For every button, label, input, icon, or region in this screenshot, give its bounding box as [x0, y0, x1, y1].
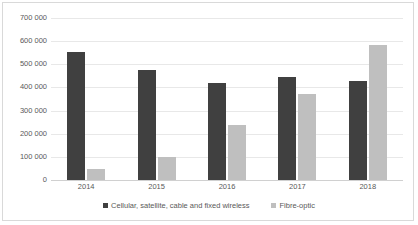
bar-group-2015: [138, 18, 176, 180]
bar-2017-series-0: [278, 77, 296, 180]
y-tick-label: 300 000: [3, 107, 47, 115]
chart-legend: Cellular, satellite, cable and fixed wir…: [3, 202, 415, 210]
bar-2018-series-1: [369, 45, 387, 180]
legend-swatch-icon: [271, 203, 276, 208]
legend-item-series-1[interactable]: Fibre-optic: [271, 202, 314, 210]
x-tick-label-2014: 2014: [78, 183, 95, 191]
y-tick-label: 200 000: [3, 130, 47, 138]
plot-area: [51, 18, 403, 180]
bar-2016-series-0: [208, 83, 226, 180]
y-tick-label: 700 000: [3, 14, 47, 22]
legend-label: Cellular, satellite, cable and fixed wir…: [111, 202, 249, 210]
bar-2014-series-0: [67, 52, 85, 180]
legend-swatch-icon: [103, 203, 108, 208]
y-tick-label: 0: [3, 176, 47, 184]
y-tick-label: 400 000: [3, 84, 47, 92]
chart-frame: 0100 000200 000300 000400 000500 000600 …: [2, 2, 414, 221]
bar-2015-series-0: [138, 70, 156, 180]
bar-group-2018: [349, 18, 387, 180]
legend-label: Fibre-optic: [279, 202, 314, 210]
bar-2016-series-1: [228, 125, 246, 180]
y-tick-label: 500 000: [3, 61, 47, 69]
bar-group-2017: [278, 18, 316, 180]
bar-group-2014: [67, 18, 105, 180]
y-tick-label: 600 000: [3, 37, 47, 45]
x-axis: 20142015201620172018: [51, 183, 403, 195]
x-tick-label-2018: 2018: [359, 183, 376, 191]
gridline: [51, 180, 403, 181]
legend-item-series-0[interactable]: Cellular, satellite, cable and fixed wir…: [103, 202, 249, 210]
x-tick-label-2015: 2015: [148, 183, 165, 191]
bar-group-2016: [208, 18, 246, 180]
y-tick-label: 100 000: [3, 153, 47, 161]
x-tick-label-2016: 2016: [219, 183, 236, 191]
bar-2018-series-0: [349, 81, 367, 181]
bar-2014-series-1: [87, 169, 105, 180]
x-tick-label-2017: 2017: [289, 183, 306, 191]
bar-2015-series-1: [158, 157, 176, 180]
bar-2017-series-1: [298, 94, 316, 180]
y-axis: 0100 000200 000300 000400 000500 000600 …: [3, 18, 47, 180]
